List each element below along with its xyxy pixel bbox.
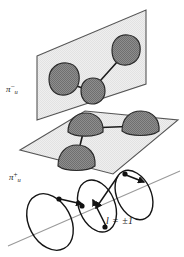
figure-container: π−u π+u l = ±1 — [0, 0, 184, 257]
pi-subscript-u: u — [18, 176, 21, 183]
loops-group — [8, 164, 180, 257]
loop-arrow-left — [60, 199, 82, 204]
upper-lobe-right — [112, 35, 140, 65]
loop-marker-dot — [56, 196, 61, 201]
label-pi-u-minus: π−u — [6, 84, 18, 96]
upper-lobe-left — [49, 63, 79, 95]
label-pi-u-plus: π+u — [9, 172, 21, 184]
label-quantum-number: l = ±1 — [106, 216, 133, 226]
lower-plane-group — [20, 111, 178, 174]
loop-marker-dot — [122, 171, 127, 176]
upper-lobe-center — [81, 78, 105, 104]
pi-subscript-u: u — [15, 88, 18, 95]
loop-marker-dot — [79, 203, 84, 208]
loop-left — [17, 186, 82, 257]
orbital-diagram-svg — [0, 0, 184, 257]
upper-plane-group — [37, 10, 146, 120]
lower-lobe-left — [68, 113, 103, 136]
